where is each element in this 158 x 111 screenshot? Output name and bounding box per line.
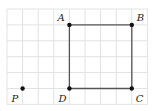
point-b-dot (130, 23, 134, 27)
grid-lines (7, 9, 147, 104)
grid-diagram: ABCDP (0, 0, 158, 111)
point-d-label: D (57, 93, 66, 104)
point-c-label: C (136, 93, 144, 104)
point-p-dot (20, 86, 24, 90)
point-b-label: B (136, 12, 144, 23)
point-c-dot (130, 86, 134, 90)
labeled-points: ABCDP (11, 12, 145, 104)
point-a-label: A (56, 12, 64, 23)
point-p-label: P (11, 93, 19, 104)
point-d-dot (67, 86, 71, 90)
point-a-dot (67, 23, 71, 27)
